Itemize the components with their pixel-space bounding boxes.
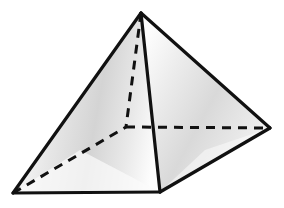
pyramid-figure [0,0,284,208]
pyramid-diagram [0,0,284,208]
edge-base-left-front [13,192,160,193]
